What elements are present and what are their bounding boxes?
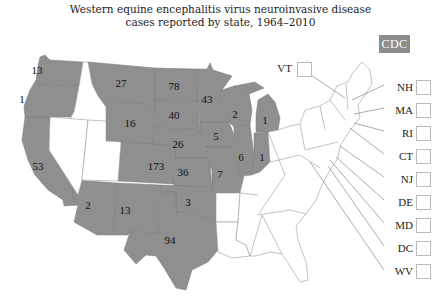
callout-box-ct — [416, 149, 431, 164]
callout-box-md — [416, 218, 431, 233]
state-value-tx: 94 — [165, 234, 177, 246]
callout-label-de: DE — [383, 196, 413, 208]
callout-label-nh: NH — [383, 81, 413, 93]
state-value-ia: 5 — [213, 130, 219, 142]
state-value-mt: 27 — [116, 77, 128, 89]
us-map: 1315327161737840263643572611213394 — [0, 0, 441, 308]
callout-box-de — [416, 195, 431, 210]
state-or — [24, 80, 79, 117]
callout-box-wv — [416, 264, 431, 279]
state-wa — [36, 55, 83, 86]
state-value-ne: 26 — [173, 138, 185, 150]
state-value-wi: 2 — [232, 108, 238, 120]
state-value-nm: 13 — [120, 204, 132, 216]
state-value-az: 2 — [85, 199, 91, 211]
callout-label-wv: WV — [383, 265, 413, 277]
callout-box-nh — [416, 80, 431, 95]
callout-box-ri — [416, 126, 431, 141]
callout-label-ri: RI — [383, 127, 413, 139]
state-value-mi: 1 — [262, 114, 268, 126]
callout-label-ct: CT — [383, 150, 413, 162]
callout-label-dc: DC — [383, 242, 413, 254]
callout-box-ma — [416, 103, 431, 118]
state-value-or: 1 — [19, 93, 25, 105]
state-value-wa: 13 — [32, 64, 44, 76]
callout-box-dc — [416, 241, 431, 256]
state-value-in: 1 — [259, 151, 265, 163]
state-value-co: 173 — [148, 160, 165, 172]
callout-box-vt — [297, 62, 312, 77]
state-value-ca: 53 — [33, 160, 45, 172]
state-co — [118, 142, 175, 184]
state-value-ks: 36 — [178, 166, 190, 178]
callout-label-vt: VT — [262, 62, 292, 74]
state-value-mn: 43 — [202, 93, 214, 105]
state-value-nd: 78 — [169, 80, 181, 92]
callout-label-md: MD — [383, 219, 413, 231]
callout-label-ma: MA — [383, 104, 413, 116]
callout-box-nj — [416, 172, 431, 187]
state-value-ok: 3 — [185, 196, 191, 208]
state-value-il: 6 — [238, 151, 244, 163]
state-value-mo: 7 — [217, 168, 223, 180]
callout-label-nj: NJ — [383, 173, 413, 185]
state-ar — [212, 193, 240, 222]
state-value-sd: 40 — [169, 109, 181, 121]
state-value-wy: 16 — [125, 117, 137, 129]
